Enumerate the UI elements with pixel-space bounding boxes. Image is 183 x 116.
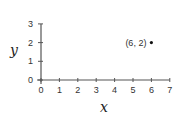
y-tick-label: 0 [28, 75, 33, 85]
point-label: (6, 2) [125, 38, 146, 48]
x-tick-label: 0 [38, 85, 43, 95]
data-point [150, 41, 153, 44]
data-points: (6, 2) [125, 38, 153, 48]
scatter-chart: 01234567 0123 (6, 2) x y [0, 0, 183, 116]
x-tick-label: 1 [57, 85, 62, 95]
x-tick-label: 3 [94, 85, 99, 95]
y-tick-label: 2 [28, 38, 33, 48]
x-tick-label: 2 [75, 85, 80, 95]
x-axis-label: x [100, 99, 108, 115]
x-tick-label: 7 [167, 85, 172, 95]
x-tick-label: 4 [112, 85, 117, 95]
y-axis-label: y [9, 42, 19, 58]
y-tick-label: 3 [28, 19, 33, 29]
x-tick-label: 5 [130, 85, 135, 95]
axes [37, 24, 170, 84]
y-tick-label: 1 [28, 56, 33, 66]
x-tick-label: 6 [149, 85, 154, 95]
